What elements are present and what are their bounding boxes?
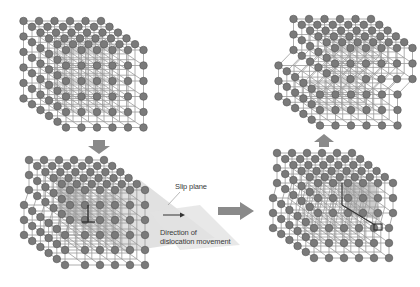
slip-plane-leader bbox=[168, 192, 180, 205]
lattice-slipped bbox=[275, 15, 417, 129]
slip-plane-label: Slip plane bbox=[175, 182, 207, 191]
direction-label-line1: Direction of bbox=[160, 228, 270, 237]
up-arrow bbox=[314, 134, 334, 147]
direction-label: Direction of dislocation movement bbox=[160, 228, 270, 246]
lattice-perfect bbox=[20, 17, 148, 131]
right-arrow bbox=[218, 202, 254, 220]
direction-label-line2: dislocation movement bbox=[160, 237, 270, 246]
lattice-partial-slip bbox=[269, 149, 397, 262]
down-arrow bbox=[88, 140, 110, 154]
